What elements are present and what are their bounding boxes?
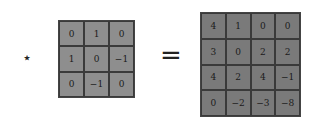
result-cell: 0 xyxy=(201,90,226,116)
kernel-cell: 1 xyxy=(84,21,109,46)
result-cell: 4 xyxy=(251,65,276,91)
kernel-cell: 0 xyxy=(59,72,84,97)
kernel-cell: 1 xyxy=(59,46,84,71)
result-cell: 4 xyxy=(201,13,226,39)
result-cell: 2 xyxy=(275,39,300,65)
result-matrix: 4 1 0 0 3 0 2 2 4 2 4 −1 0 −2 −3 −8 xyxy=(200,12,301,117)
result-cell: 0 xyxy=(226,39,251,65)
kernel-cell: −1 xyxy=(84,72,109,97)
result-cell: −2 xyxy=(226,90,251,116)
result-cell: 3 xyxy=(201,39,226,65)
kernel-cell: 0 xyxy=(59,21,84,46)
result-cell: −8 xyxy=(275,90,300,116)
result-cell: −1 xyxy=(275,65,300,91)
convolution-operator: ⋆ xyxy=(22,48,32,67)
kernel-cell: 0 xyxy=(109,21,134,46)
result-cell: 0 xyxy=(275,13,300,39)
result-cell: 4 xyxy=(201,65,226,91)
kernel-matrix: 0 1 0 1 0 −1 0 −1 0 xyxy=(58,20,135,98)
result-cell: 1 xyxy=(226,13,251,39)
result-cell: 2 xyxy=(251,39,276,65)
result-cell: 2 xyxy=(226,65,251,91)
equals-sign: = xyxy=(160,40,182,70)
kernel-cell: −1 xyxy=(109,46,134,71)
kernel-cell: 0 xyxy=(109,72,134,97)
kernel-cell: 0 xyxy=(84,46,109,71)
result-cell: −3 xyxy=(251,90,276,116)
result-cell: 0 xyxy=(251,13,276,39)
